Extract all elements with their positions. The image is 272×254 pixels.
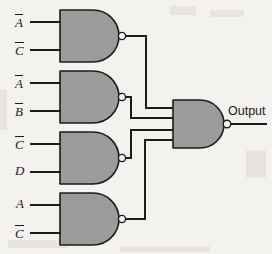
input-label-g2-in2: B: [15, 103, 23, 118]
gate-output-inversion-bubble: [223, 120, 231, 128]
gate-3-body: [60, 132, 119, 184]
circuit-svg: [0, 0, 272, 254]
circuit-diagram-canvas: A C A B C D A C Output: [0, 0, 272, 254]
wire-gate1-to-output: [126, 36, 173, 108]
output-label: Output: [228, 104, 266, 118]
gate-1-inversion-bubble: [118, 32, 125, 39]
gate-3-inversion-bubble: [118, 154, 125, 161]
gate-4-inversion-bubble: [118, 215, 125, 222]
input-label-g2-in1: A: [15, 75, 23, 90]
wire-gate4-to-output: [126, 140, 173, 219]
gate-output-body: [173, 100, 224, 148]
gate-2-body: [60, 71, 119, 123]
input-label-g4-in2: C: [15, 225, 24, 240]
gate-4-body: [60, 193, 119, 245]
gate-2-inversion-bubble: [118, 93, 125, 100]
input-label-g1-in2: C: [15, 42, 24, 57]
gate-1-body: [60, 10, 119, 62]
input-label-g3-in2: D: [15, 164, 24, 177]
input-label-g4-in1: A: [16, 197, 24, 210]
gate-4: [31, 193, 126, 245]
wire-gate3-to-output: [126, 130, 173, 158]
gate-2: [31, 71, 126, 123]
input-label-g3-in1: C: [15, 136, 24, 151]
input-label-g1-in1: A: [15, 14, 23, 29]
gate-3: [31, 132, 126, 184]
gate-1: [31, 10, 126, 62]
